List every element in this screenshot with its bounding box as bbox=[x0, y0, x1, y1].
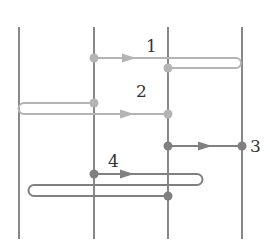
flow-diagram: 1234 bbox=[0, 0, 270, 251]
flow-3-end-dot bbox=[238, 142, 247, 151]
flow-4-start-dot bbox=[90, 170, 99, 179]
flow-label-2: 2 bbox=[136, 81, 147, 101]
flow-label-4: 4 bbox=[108, 151, 119, 171]
flow-2-end-dot bbox=[164, 110, 173, 119]
diagram-background bbox=[0, 0, 270, 251]
flow-2-start-dot bbox=[90, 99, 99, 108]
flow-1-end-dot bbox=[164, 64, 173, 73]
flow-label-3: 3 bbox=[250, 136, 261, 156]
flow-3-start-dot bbox=[164, 142, 173, 151]
flow-label-1: 1 bbox=[146, 36, 157, 56]
flow-1-start-dot bbox=[90, 54, 99, 63]
flow-4-end-dot bbox=[164, 192, 173, 201]
